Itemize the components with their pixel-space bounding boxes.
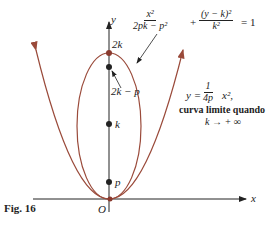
plus-sign: + xyxy=(190,16,196,28)
figure-caption: Fig. 16 xyxy=(4,202,36,214)
label-k: k xyxy=(115,119,120,130)
label-2k-minus-p: 2k − p xyxy=(111,86,140,97)
limit-text: curva limite quando xyxy=(179,104,265,115)
ellipse-rhs: = 1 xyxy=(241,16,255,28)
ellipse-leader-line xyxy=(137,34,157,63)
origin-label: O xyxy=(98,204,106,215)
parabola-frac-numerator: 1 xyxy=(204,81,213,93)
ellipse-term2-numerator: (y − k)² xyxy=(199,9,233,21)
limit-condition: k → + ∞ xyxy=(205,116,241,127)
parabola-rhs: x², xyxy=(222,89,233,101)
label-p: p xyxy=(115,177,121,188)
point-2k xyxy=(106,50,112,56)
ellipse-term2-denominator: k² xyxy=(212,21,219,32)
ellipse-term1-denominator: 2pk − p² xyxy=(133,21,167,32)
point-origin xyxy=(108,197,113,202)
parabola-fraction: 1 4p xyxy=(203,81,213,103)
x-axis-label: x xyxy=(251,193,256,204)
parabola-frac-denominator: 4p xyxy=(203,93,213,104)
parabola-lhs: y = xyxy=(186,89,201,101)
figure: y x O 2k 2k − p k p x² 2pk − p² + (y − k… xyxy=(0,0,271,227)
point-p xyxy=(106,179,112,185)
y-axis-label: y xyxy=(111,14,116,25)
point-k xyxy=(106,121,112,127)
ellipse-term2: (y − k)² k² xyxy=(199,9,233,31)
label-2k: 2k xyxy=(112,39,122,50)
ellipse-term1: x² 2pk − p² xyxy=(133,9,167,31)
point-2k-minus-p xyxy=(106,64,112,70)
ellipse-term1-numerator: x² xyxy=(144,9,155,21)
